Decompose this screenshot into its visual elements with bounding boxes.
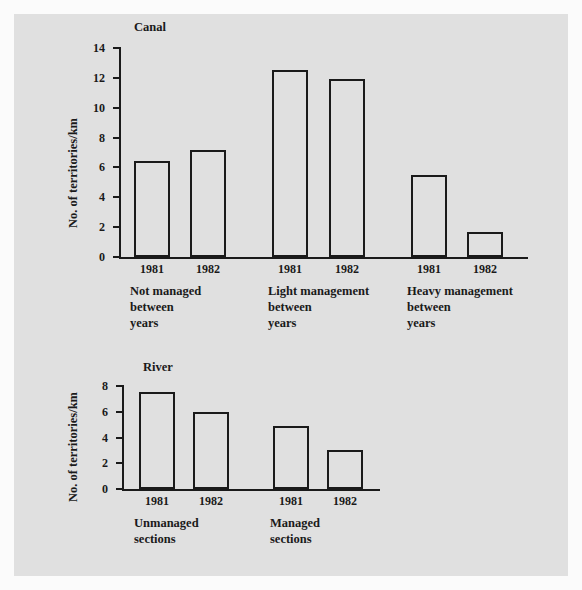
y-tick-mark — [116, 411, 122, 413]
river-chart: River No. of territories/km 86420 198119… — [0, 0, 582, 590]
river-chart-title: River — [143, 360, 173, 375]
river-x-axis-line — [122, 489, 380, 491]
y-tick-label: 0 — [76, 483, 108, 495]
y-tick-mark — [116, 488, 122, 490]
bar — [193, 412, 229, 489]
x-tick-label-year: 1982 — [323, 494, 367, 509]
figure-canvas: Canal No. of territories/km 14121086420 … — [0, 0, 582, 590]
river-y-axis-line — [122, 385, 124, 491]
y-tick-mark — [116, 462, 122, 464]
y-tick-mark — [116, 385, 122, 387]
y-tick-label: 6 — [76, 406, 108, 418]
bar — [139, 392, 175, 489]
group-label: Unmanaged sections — [134, 515, 199, 547]
x-tick-label-year: 1981 — [135, 494, 179, 509]
group-label: Managed sections — [270, 515, 320, 547]
bar — [327, 450, 363, 489]
y-tick-label: 2 — [76, 457, 108, 469]
x-tick-label-year: 1981 — [269, 494, 313, 509]
y-tick-label: 8 — [76, 380, 108, 392]
y-tick-label: 4 — [76, 432, 108, 444]
y-tick-mark — [116, 437, 122, 439]
x-tick-label-year: 1982 — [189, 494, 233, 509]
bar — [273, 426, 309, 489]
